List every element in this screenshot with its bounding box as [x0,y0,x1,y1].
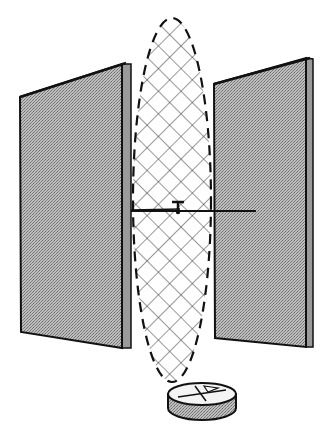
right-plate [214,58,313,347]
left-plate [20,63,131,348]
compass-disk [168,383,236,420]
diagram-figure [0,0,333,432]
